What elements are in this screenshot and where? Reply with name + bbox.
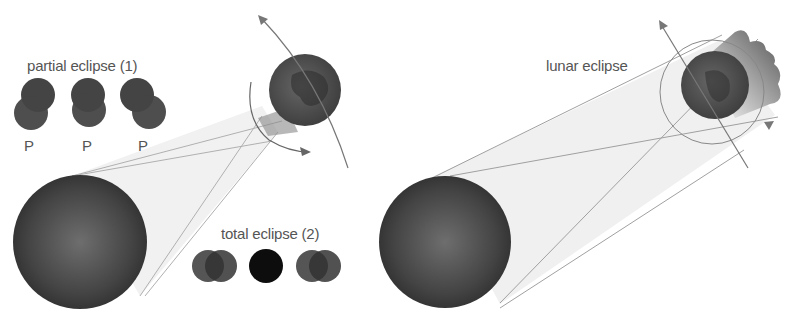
- sun: [379, 176, 511, 308]
- total-eclipse-icons: [192, 249, 341, 283]
- phase-marker: P: [82, 137, 92, 154]
- lunar-eclipse-label: lunar eclipse: [546, 57, 628, 74]
- arrow-head: [300, 147, 311, 156]
- partial-eclipse-icons: [14, 78, 166, 130]
- total-eclipse-label: total eclipse (2): [221, 225, 319, 242]
- partial-eclipse-label: partial eclipse (1): [27, 57, 137, 74]
- phase-marker: P: [138, 137, 148, 154]
- phase-marker: P: [24, 137, 34, 154]
- eclipse-diagram: [0, 0, 805, 327]
- arrow-head: [764, 121, 774, 130]
- sun: [13, 175, 147, 309]
